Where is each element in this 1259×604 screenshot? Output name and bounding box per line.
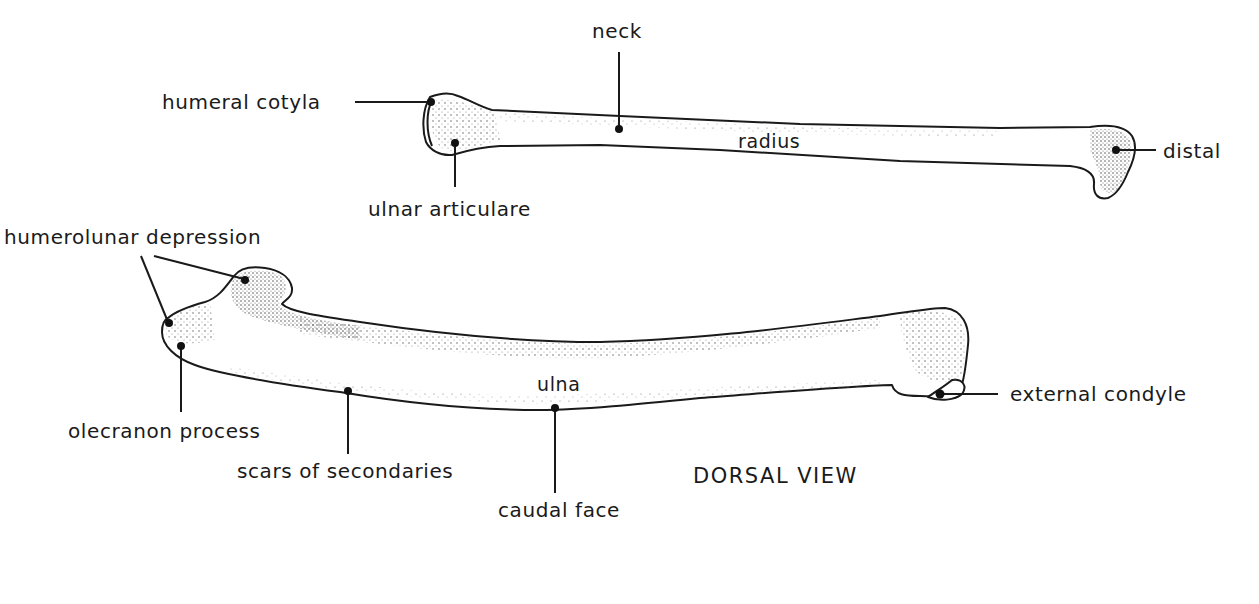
radius-name-label: radius bbox=[738, 130, 800, 152]
bone-diagram: radius neck humeral cotyla ulnar articul… bbox=[0, 0, 1259, 604]
humerolunar-depression-label: humerolunar depression bbox=[4, 225, 261, 249]
ulna-name-label: ulna bbox=[537, 373, 580, 395]
humerolunar-depression-marker-lower bbox=[165, 319, 173, 327]
humerolunar-depression-leader-line-lower bbox=[141, 256, 168, 322]
radius-proximal-shading bbox=[431, 99, 500, 150]
external-condyle-marker bbox=[936, 390, 945, 399]
neck-marker bbox=[615, 125, 623, 133]
external-condyle-label: external condyle bbox=[1010, 382, 1187, 406]
olecranon-process-marker bbox=[177, 342, 185, 350]
caudal-face-marker bbox=[551, 404, 559, 412]
label-external-condyle: external condyle bbox=[936, 382, 1187, 406]
view-title: DORSAL VIEW bbox=[693, 464, 858, 488]
neck-label: neck bbox=[592, 19, 642, 43]
label-caudal-face: caudal face bbox=[498, 404, 620, 522]
label-humeral-cotyla: humeral cotyla bbox=[162, 90, 435, 114]
ulnar-articulare-label: ulnar articulare bbox=[368, 197, 531, 221]
scars-of-secondaries-label: scars of secondaries bbox=[237, 459, 453, 483]
humerolunar-depression-marker-upper bbox=[241, 276, 249, 284]
radius-bone: radius bbox=[423, 93, 1135, 198]
humerolunar-depression-leader-line-upper bbox=[154, 256, 244, 279]
caudal-face-label: caudal face bbox=[498, 498, 620, 522]
scars-of-secondaries-marker bbox=[344, 387, 352, 395]
distal-marker bbox=[1112, 146, 1120, 154]
olecranon-process-label: olecranon process bbox=[68, 419, 261, 443]
humeral-cotyla-marker bbox=[427, 98, 435, 106]
distal-label: distal bbox=[1163, 139, 1221, 163]
humeral-cotyla-label: humeral cotyla bbox=[162, 90, 321, 114]
ulna-olecranon-shading bbox=[166, 304, 215, 343]
ulnar-articulare-marker bbox=[451, 139, 459, 147]
ulna-bone: ulna bbox=[162, 267, 968, 410]
